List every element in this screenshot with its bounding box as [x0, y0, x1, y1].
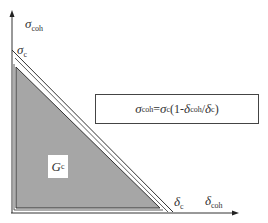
- x-axis-arrow-icon: [232, 211, 239, 216]
- y-intercept-label: σc: [17, 40, 27, 59]
- eq-lhs-subscript: coh: [142, 105, 154, 114]
- x-axis-label: δcoh: [205, 191, 223, 210]
- energy-area-triangle: [16, 67, 160, 208]
- eq-open: (1-: [170, 102, 184, 117]
- area-symbol: G: [52, 159, 61, 175]
- sigma-c-subscript: c: [23, 50, 27, 59]
- x-axis-subscript: coh: [211, 201, 223, 210]
- eq-num-subscript: coh: [190, 105, 202, 114]
- area-label-box: Gc: [48, 155, 68, 178]
- eq-close: ): [215, 102, 219, 117]
- equation-box: σcoh=σc(1-δcoh/δc): [95, 94, 259, 124]
- eq-equals: =: [153, 102, 160, 117]
- y-axis-label: σcoh: [25, 14, 43, 33]
- y-axis-subscript: coh: [31, 24, 43, 33]
- delta-c-subscript: c: [180, 202, 184, 211]
- area-subscript: c: [61, 162, 65, 171]
- y-axis-arrow-icon: [10, 10, 15, 17]
- x-intercept-label: δc: [174, 192, 184, 211]
